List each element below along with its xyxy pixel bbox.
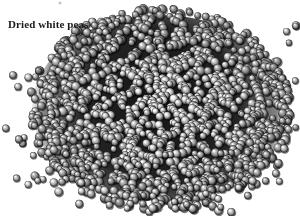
figure-dried-white-peas: Dried white peas [0, 0, 300, 216]
top-speck-artifact [58, 1, 62, 5]
figure-caption: Dried white peas [8, 18, 88, 31]
peas-pile-image [0, 0, 300, 216]
